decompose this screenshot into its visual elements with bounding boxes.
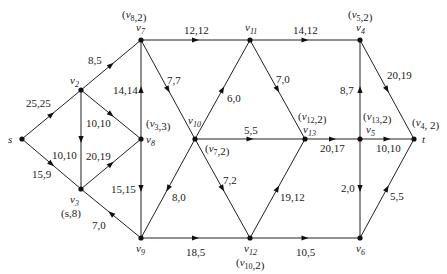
arrowhead-icon (274, 85, 280, 92)
arrowhead-icon (164, 85, 170, 92)
arrowhead-icon (247, 136, 254, 141)
arrowhead-icon (138, 185, 143, 192)
node-label-v7: v7 (136, 21, 146, 36)
edge-capacity-flow-label: 20,17 (320, 142, 345, 154)
arrowhead-icon (383, 85, 389, 92)
node-v8 (138, 136, 143, 141)
edge-capacity-flow-label: 15,15 (111, 183, 136, 195)
node-label-v3: v3 (70, 193, 79, 208)
node-v9 (138, 235, 143, 240)
arrowhead-icon (192, 37, 199, 42)
node-label-v11: v11 (245, 21, 257, 36)
arrowhead-icon (302, 37, 309, 42)
edge-capacity-flow-label: 14,12 (293, 24, 318, 36)
node-v12 (247, 235, 252, 240)
edge-capacity-flow-label: 15,9 (32, 168, 52, 180)
node-tag-t: (v4, 2) (412, 116, 440, 132)
edge-capacity-flow-label: 7,0 (92, 219, 106, 231)
node-label-v9: v9 (136, 242, 145, 257)
arrowhead-icon (78, 136, 83, 143)
labels-layer: 25,2515,98,510,1010,1020,197,014,1415,15… (8, 8, 440, 272)
node-v13 (302, 136, 307, 141)
arrowhead-icon (274, 185, 280, 192)
node-tag-v3: (s,8) (61, 207, 81, 220)
edge-capacity-flow-label: 5,5 (244, 124, 258, 136)
node-label-v6: v6 (356, 242, 365, 257)
node-tag-v12: (v10,2) (236, 256, 265, 272)
node-v4 (357, 37, 362, 42)
edge-capacity-flow-label: 7,7 (167, 74, 181, 86)
edge-capacity-flow-label: 7,0 (276, 73, 290, 85)
arrowhead-icon (383, 185, 389, 192)
node-t (411, 136, 416, 141)
node-label-v12: v12 (244, 242, 257, 257)
node-tag-v7: (v8,2) (122, 8, 147, 24)
node-v3 (78, 186, 83, 191)
arrowhead-icon (192, 235, 199, 240)
diagram-svg: 25,2515,98,510,1010,1020,197,014,1415,15… (0, 0, 447, 274)
edge-capacity-flow-label: 14,14 (113, 84, 138, 96)
node-label-v13: v13 (303, 123, 316, 138)
node-tag-v8: (v3,3) (146, 117, 171, 133)
edge-capacity-flow-label: 8,5 (88, 54, 102, 66)
flow-network-diagram: 25,2515,98,510,1010,1020,197,014,1415,15… (0, 0, 447, 274)
node-v2 (78, 87, 83, 92)
node-label-v10: v10 (188, 114, 201, 129)
edge-capacity-flow-label: 20,19 (86, 150, 111, 162)
arrowhead-icon (138, 86, 143, 93)
edge-capacity-flow-label: 10,10 (52, 149, 77, 161)
arrowhead-icon (357, 86, 362, 93)
arrowhead-icon (219, 86, 225, 93)
node-v11 (247, 37, 252, 42)
edge-capacity-flow-label: 10,10 (86, 117, 111, 129)
edge-capacity-flow-label: 20,19 (387, 69, 412, 81)
arrowhead-icon (329, 136, 336, 141)
node-label-v4: v4 (356, 21, 365, 36)
node-label-v8: v8 (146, 133, 155, 148)
node-s (19, 136, 24, 141)
node-label-v2: v2 (70, 74, 79, 89)
edge-capacity-flow-label: 6,0 (227, 92, 241, 104)
node-label-t: t (422, 133, 426, 145)
node-v6 (357, 235, 362, 240)
arrowhead-icon (357, 185, 362, 192)
edge-capacity-flow-label: 5,5 (390, 190, 404, 202)
node-v5 (357, 136, 362, 141)
node-v7 (138, 37, 143, 42)
node-v10 (192, 136, 197, 141)
edge-capacity-flow-label: 12,12 (184, 24, 209, 36)
edge-capacity-flow-label: 8,0 (172, 191, 186, 203)
arrowhead-icon (302, 235, 309, 240)
node-label-v5: v5 (366, 123, 375, 138)
edge-capacity-flow-label: 7,2 (223, 174, 237, 186)
node-tag-v4: (v5,2) (348, 8, 373, 24)
edge-capacity-flow-label: 8,7 (340, 84, 354, 96)
edge-capacity-flow-label: 19,12 (280, 191, 305, 203)
node-label-s: s (8, 133, 12, 145)
edge-capacity-flow-label: 10,5 (296, 246, 316, 258)
edge-capacity-flow-label: 10,10 (376, 142, 401, 154)
arrowhead-icon (384, 136, 391, 141)
edge-capacity-flow-label: 2,0 (341, 182, 355, 194)
edge-capacity-flow-label: 25,25 (26, 97, 51, 109)
node-tag-v10: (v7,2) (205, 142, 230, 158)
edge-capacity-flow-label: 18,5 (186, 246, 206, 258)
